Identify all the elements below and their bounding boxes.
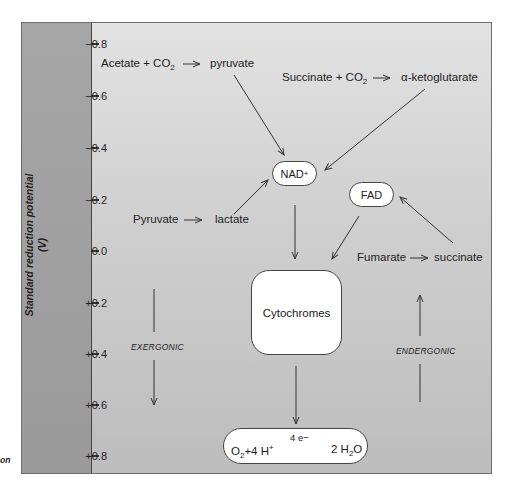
tick-label: −0.6 [85,90,107,102]
tick-label: +0.6 [85,399,107,411]
o-label: O [231,445,240,457]
water-label: 2 H [331,443,349,455]
fad-label: FAD [361,189,382,201]
tick-label: +0.8 [85,450,107,462]
tick-label: −0.8 [85,38,107,50]
axis-title-line1: Standard reduction potential [23,174,36,317]
product-succinate: succinate [434,251,483,263]
subscript: 2 [363,77,367,86]
reaction-succinate-co2: Succinate + CO2 [282,71,367,86]
fad-node: FAD [349,182,394,207]
reactant-fumarate: Fumarate [357,251,406,263]
water-label-o: O [353,443,362,455]
tick-label: +0.4 [85,348,107,360]
product-lactate: lactate [215,213,249,225]
reactant-succinate-co2: Succinate + CO [282,71,363,83]
subscript: 2 [170,63,174,72]
axis-title: Standard reduction potential (V) [23,174,49,317]
tick-label: −0.2 [85,194,107,206]
cytochromes-label: Cytochromes [263,307,331,319]
superscript: + [304,169,309,178]
tick-label: 0.0 [92,245,107,257]
tick-label: −0.4 [85,142,107,154]
plus-h-label: +4 H [244,445,269,457]
tick-label: +0.2 [85,297,107,309]
cytochromes-node: Cytochromes [251,270,342,355]
product-water: 2 H2O [331,443,362,458]
product-pyruvate: pyruvate [210,57,254,69]
caption-fragment: on [0,455,10,465]
axis-title-line2: (V) [36,174,49,317]
reaction-acetate-co2: Acetate + CO2 [101,57,175,72]
reactant-oxygen: O2+4 H+ [231,443,274,460]
endergonic-label: ENDERGONIC [396,346,456,356]
product-alpha-ketoglutarate: α-ketoglutarate [401,71,478,83]
reactant-pyruvate: Pyruvate [133,213,178,225]
electrons-label: 4 e− [290,432,309,443]
superscript: + [269,443,274,452]
exergonic-label: EXERGONIC [131,342,184,352]
reactant-acetate-co2: Acetate + CO [101,57,170,69]
nad-node: NAD+ [272,161,317,186]
nad-label: NAD [281,168,304,180]
